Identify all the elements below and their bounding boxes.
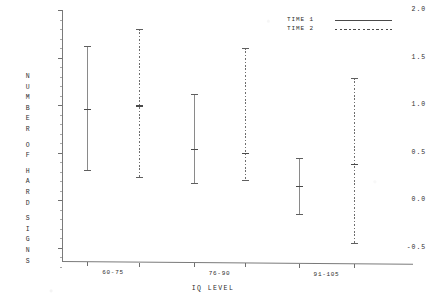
legend-swatch-solid-line <box>335 17 392 23</box>
x-tick-mark <box>87 262 88 266</box>
y-minor-tick <box>60 77 62 78</box>
error-bar-stem <box>245 48 246 181</box>
y-tick-label: 1.5 <box>392 54 426 61</box>
y-axis-title-char: R <box>22 188 34 199</box>
y-axis-title-char: S <box>22 214 34 225</box>
y-tick-mark <box>58 248 62 249</box>
y-tick-label: -0.5 <box>392 244 426 251</box>
y-tick-mark <box>58 105 62 106</box>
y-minor-tick <box>60 20 62 21</box>
legend-label-time-2: TIME 2 <box>287 25 327 32</box>
y-axis-title-char: O <box>22 141 34 152</box>
y-minor-tick <box>60 181 62 182</box>
y-minor-tick <box>60 191 62 192</box>
y-tick-mark <box>58 200 62 201</box>
y-minor-tick <box>60 67 62 68</box>
error-bar <box>348 78 360 243</box>
x-tick-mark <box>194 263 195 267</box>
error-bar-lower-cap <box>136 177 143 178</box>
y-minor-tick <box>60 115 62 116</box>
error-bar-stem <box>194 94 195 184</box>
legend-item-time-2: TIME 2 <box>287 24 392 33</box>
y-axis-title-char: I <box>22 225 34 236</box>
x-tick-label: 76-90 <box>190 270 250 277</box>
y-axis-title-char: S <box>22 257 34 268</box>
error-bar-lower-cap <box>296 214 303 215</box>
y-axis-title-char: N <box>22 246 34 257</box>
y-tick-label: 2.0 <box>392 6 426 13</box>
y-axis-title-char: M <box>22 93 34 104</box>
y-axis-title-char: A <box>22 177 34 188</box>
y-minor-tick <box>60 267 62 268</box>
x-tick-mark <box>354 264 355 268</box>
y-minor-tick <box>60 124 62 125</box>
error-bar <box>133 29 145 178</box>
y-axis-title-char: F <box>22 151 34 162</box>
error-bar <box>188 94 200 184</box>
y-axis-title-char: U <box>22 83 34 94</box>
y-minor-tick <box>60 172 62 173</box>
x-axis-line <box>62 261 413 265</box>
mean-marker <box>351 164 358 166</box>
error-bar-lower-cap <box>191 183 198 184</box>
y-minor-tick <box>60 39 62 40</box>
y-minor-tick <box>60 48 62 49</box>
error-bar-stem <box>354 78 355 243</box>
y-axis-title-char: B <box>22 104 34 115</box>
error-bar <box>293 158 305 215</box>
y-minor-tick <box>60 238 62 239</box>
y-tick-label: 1.0 <box>392 101 426 108</box>
y-minor-tick <box>60 86 62 87</box>
error-bar-upper-cap <box>191 94 198 95</box>
y-tick-mark <box>58 58 62 59</box>
chart-legend: TIME 1 TIME 2 <box>287 15 392 33</box>
error-bar <box>239 48 251 181</box>
error-bar-upper-cap <box>351 78 358 79</box>
y-minor-tick <box>60 210 62 211</box>
legend-swatch-dashed-line <box>335 26 392 32</box>
scan-artifact-overlay <box>0 0 426 303</box>
y-axis-title-char: E <box>22 114 34 125</box>
x-tick-mark <box>299 264 300 268</box>
y-minor-tick <box>60 96 62 97</box>
x-tick-label: 60-75 <box>83 269 143 276</box>
y-axis-title-char: H <box>22 167 34 178</box>
x-axis-title: IQ LEVEL <box>0 285 426 292</box>
y-axis-title-char: N <box>22 72 34 83</box>
x-tick-mark <box>245 263 246 267</box>
error-bar-stem <box>139 29 140 178</box>
error-bar-lower-cap <box>84 170 91 171</box>
y-tick-label: 0.0 <box>392 196 426 203</box>
chart-canvas: 2.01.51.00.50.0-0.5 60-7576-9091-105 NUM… <box>0 0 426 303</box>
y-axis-title-char: R <box>22 125 34 136</box>
mean-marker <box>191 149 198 151</box>
y-tick-mark <box>58 153 62 154</box>
error-bar-upper-cap <box>136 29 143 30</box>
mean-marker <box>242 153 249 155</box>
y-minor-tick <box>60 219 62 220</box>
y-minor-tick <box>60 143 62 144</box>
legend-label-time-1: TIME 1 <box>287 16 327 23</box>
mean-marker <box>136 105 143 107</box>
error-bar-upper-cap <box>296 158 303 159</box>
y-axis-title-char: D <box>22 199 34 210</box>
x-tick-mark <box>139 263 140 267</box>
error-bar-upper-cap <box>84 46 91 47</box>
legend-item-time-1: TIME 1 <box>287 15 392 24</box>
mean-marker <box>84 109 91 111</box>
error-bar-lower-cap <box>351 243 358 244</box>
error-bar <box>81 46 93 171</box>
x-tick-label: 91-105 <box>297 271 357 278</box>
y-minor-tick <box>60 134 62 135</box>
y-minor-tick <box>60 257 62 258</box>
y-axis-title: NUMBEROFHARDSIGNS <box>22 72 34 267</box>
y-minor-tick <box>60 162 62 163</box>
error-bar-lower-cap <box>242 180 249 181</box>
y-tick-label: 0.5 <box>392 149 426 156</box>
y-tick-mark <box>58 10 62 11</box>
mean-marker <box>296 186 303 188</box>
y-minor-tick <box>60 29 62 30</box>
y-minor-tick <box>60 229 62 230</box>
y-axis-title-char: G <box>22 235 34 246</box>
y-axis-line <box>62 10 63 262</box>
